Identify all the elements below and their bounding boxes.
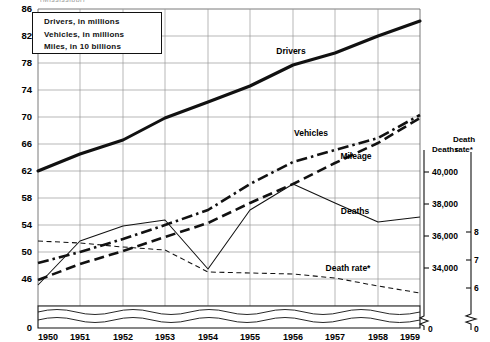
ytick-66: 66 bbox=[21, 138, 32, 149]
xtick-1955: 1955 bbox=[240, 332, 260, 342]
deaths-tick-34000: 34,000 bbox=[432, 263, 458, 273]
death-rate-axis-title-2: rate* bbox=[455, 145, 474, 154]
series-label-drivers: Drivers bbox=[276, 46, 306, 56]
deaths-tick-zero: 0 bbox=[428, 324, 433, 334]
ytick-86: 86 bbox=[21, 3, 32, 14]
death-rate-axis-title-1: Death bbox=[453, 135, 475, 144]
ytick-78: 78 bbox=[21, 57, 32, 68]
xtick-1956: 1956 bbox=[283, 332, 303, 342]
axis-break-band bbox=[38, 306, 420, 328]
ytick-82: 82 bbox=[21, 30, 32, 41]
series-label-death-rate: Death rate* bbox=[326, 263, 372, 273]
xtick-1958: 1958 bbox=[368, 332, 388, 342]
legend-box: Drivers, in millions Vehicles, in millio… bbox=[32, 12, 162, 54]
deaths-tick-36000: 36,000 bbox=[432, 231, 458, 241]
xtick-1954: 1954 bbox=[198, 332, 218, 342]
xtick-1959: 1959 bbox=[400, 332, 420, 342]
left-axis-labels: 86 82 78 74 70 66 62 58 54 50 46 0 bbox=[21, 3, 32, 333]
ytick-70: 70 bbox=[21, 111, 32, 122]
xtick-1950: 1950 bbox=[38, 332, 58, 342]
ytick-50: 50 bbox=[21, 246, 32, 257]
ytick-46: 46 bbox=[21, 273, 32, 284]
legend-line-drivers: Drivers, in millions bbox=[44, 16, 161, 28]
xtick-1951: 1951 bbox=[70, 332, 90, 342]
rate-tick-6: 6 bbox=[474, 283, 479, 293]
xtick-1952: 1952 bbox=[113, 332, 133, 342]
x-axis-labels: 1950 1951 1952 1953 1954 1955 1956 1957 … bbox=[38, 332, 420, 342]
series-label-deaths: Deaths bbox=[341, 206, 370, 216]
ytick-74: 74 bbox=[21, 84, 32, 95]
ytick-54: 54 bbox=[21, 219, 32, 230]
series-vehicles-line bbox=[38, 115, 420, 263]
series-label-vehicles: Vehicles bbox=[294, 128, 328, 138]
ytick-zero-left: 0 bbox=[27, 322, 32, 333]
rate-tick-zero: 0 bbox=[474, 324, 479, 334]
legend-line-miles: Miles, in 10 billions bbox=[44, 41, 161, 53]
legend-line-vehicles: Vehicles, in millions bbox=[44, 29, 161, 41]
ytick-58: 58 bbox=[21, 192, 32, 203]
xtick-1953: 1953 bbox=[155, 332, 175, 342]
rate-tick-8: 8 bbox=[474, 227, 479, 237]
chart-figure: (Mississippi) bbox=[0, 0, 490, 342]
ytick-62: 62 bbox=[21, 165, 32, 176]
xtick-1957: 1957 bbox=[325, 332, 345, 342]
deaths-tick-40000: 40,000 bbox=[432, 167, 458, 177]
deaths-tick-38000: 38,000 bbox=[432, 199, 458, 209]
rate-tick-7: 7 bbox=[474, 255, 479, 265]
deaths-axis: Deaths 40,000 38,000 36,000 34,000 0 bbox=[420, 145, 459, 334]
series-label-mileage: Mileage bbox=[340, 151, 371, 161]
